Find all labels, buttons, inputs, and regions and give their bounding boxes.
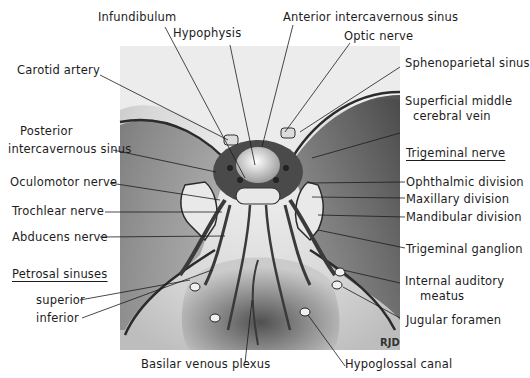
label-posterior-intercavernous-sinus: Posterior	[20, 125, 73, 138]
label-trigeminal-ganglion: Trigeminal ganglion	[406, 243, 523, 256]
label-trochlear-nerve: Trochlear nerve	[12, 205, 104, 218]
label-basilar-venous-plexus: Basilar venous plexus	[141, 358, 271, 371]
label-maxillary-division: Maxillary division	[406, 193, 509, 206]
artist-signature: RJD	[380, 337, 400, 348]
label-mandibular-division: Mandibular division	[406, 211, 522, 224]
label-posterior-intercavernous-sinus-line2: intercavernous sinus	[8, 143, 131, 156]
label-sphenoparietal-sinus: Sphenoparietal sinus	[405, 57, 530, 70]
label-superficial-middle-cerebral-vein-line2: cerebral vein	[413, 110, 491, 123]
label-anterior-intercavernous-sinus: Anterior intercavernous sinus	[283, 11, 458, 24]
label-internal-auditory-meatus-line2: meatus	[420, 290, 464, 303]
label-superior-petrosal-sinus: superior	[36, 294, 85, 307]
label-inferior-petrosal-sinus: inferior	[36, 312, 79, 325]
label-optic-nerve: Optic nerve	[344, 30, 413, 43]
label-superficial-middle-cerebral-vein: Superficial middle	[405, 95, 512, 108]
label-infundibulum: Infundibulum	[98, 11, 176, 24]
heading-petrosal-sinuses: Petrosal sinuses	[12, 268, 108, 281]
label-oculomotor-nerve: Oculomotor nerve	[10, 176, 117, 189]
label-hypoglossal-canal: Hypoglossal canal	[345, 358, 453, 371]
label-carotid-artery: Carotid artery	[17, 64, 100, 77]
label-abducens-nerve: Abducens nerve	[12, 231, 108, 244]
label-internal-auditory-meatus: Internal auditory	[405, 275, 504, 288]
heading-trigeminal-nerve: Trigeminal nerve	[406, 147, 505, 160]
label-jugular-foramen: Jugular foramen	[406, 314, 501, 327]
label-hypophysis: Hypophysis	[173, 27, 241, 40]
label-ophthalmic-division: Ophthalmic division	[406, 176, 524, 189]
